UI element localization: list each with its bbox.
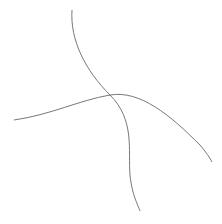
contour-canvas <box>0 0 222 224</box>
guide-line-horizontal <box>14 94 212 162</box>
contour-plot <box>0 0 222 224</box>
core-guide-lines <box>14 10 212 211</box>
guide-line-vertical <box>72 10 140 211</box>
